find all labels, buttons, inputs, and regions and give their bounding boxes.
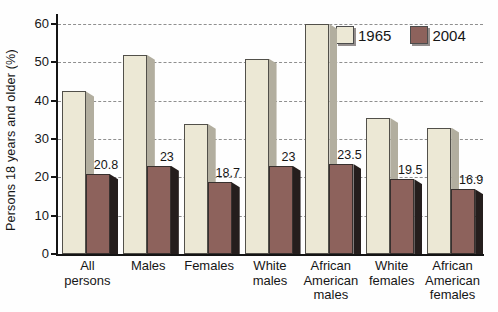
smoking-prevalence-bar-chart: Persons 18 years and older (%) 010203040… xyxy=(0,0,498,312)
x-category-label-african-american-females: AfricanAmericanfemales xyxy=(414,259,491,303)
bar-1965-african-american-males xyxy=(305,24,329,254)
value-label-white-males: 23 xyxy=(282,150,296,164)
bar-1965-white-males xyxy=(245,59,269,255)
bar-2004-all-persons xyxy=(86,174,110,254)
bar-side-2004-all-persons xyxy=(110,174,118,254)
y-tick-label-20: 20 xyxy=(20,169,49,185)
value-label-african-american-males: 23.5 xyxy=(337,148,361,162)
bar-side-2004-african-american-females xyxy=(475,189,483,254)
value-label-african-american-females: 16.9 xyxy=(459,173,483,187)
value-label-white-females: 19.5 xyxy=(398,163,422,177)
x-category-label-line: females xyxy=(414,288,491,303)
y-tick-label-30: 30 xyxy=(20,131,49,147)
bar-2004-white-females xyxy=(390,179,414,254)
bar-2004-african-american-males xyxy=(329,164,353,254)
y-tick-label-60: 60 xyxy=(20,16,49,32)
legend-swatch-1965 xyxy=(336,26,354,44)
legend-swatch-2004 xyxy=(410,26,428,44)
y-axis-line xyxy=(56,14,58,256)
bar-1965-females xyxy=(184,124,208,254)
legend-item-1965: 1965 xyxy=(336,26,391,44)
y-tick-label-0: 0 xyxy=(20,246,49,262)
x-category-label-line: American xyxy=(414,274,491,289)
bar-side-2004-females xyxy=(232,182,240,254)
x-axis-line xyxy=(56,254,484,256)
bar-2004-white-males xyxy=(269,166,293,254)
y-tick-label-50: 50 xyxy=(20,54,49,70)
bar-1965-white-females xyxy=(366,118,390,254)
bar-2004-males xyxy=(147,166,171,254)
legend: 19652004 xyxy=(336,26,466,44)
gridline-60 xyxy=(58,24,483,25)
value-label-females: 18.7 xyxy=(216,166,240,180)
value-label-all-persons: 20.8 xyxy=(94,158,118,172)
x-category-label-line: males xyxy=(292,288,369,303)
bar-side-2004-white-females xyxy=(414,179,422,254)
plot-area: 010203040506020.8Allpersons23Males18.7Fe… xyxy=(0,0,498,312)
bar-1965-all-persons xyxy=(62,91,86,254)
bar-2004-african-american-females xyxy=(451,189,475,254)
legend-label-1965: 1965 xyxy=(358,27,391,44)
y-tick-label-10: 10 xyxy=(20,208,49,224)
legend-item-2004: 2004 xyxy=(410,26,465,44)
bar-2004-females xyxy=(208,182,232,254)
bar-1965-african-american-females xyxy=(427,128,451,255)
bar-side-2004-males xyxy=(171,166,179,254)
legend-label-2004: 2004 xyxy=(432,27,465,44)
bar-side-2004-white-males xyxy=(293,166,301,254)
bar-1965-males xyxy=(123,55,147,254)
bar-side-2004-african-american-males xyxy=(353,164,361,254)
x-category-label-line: African xyxy=(414,259,491,274)
x-category-label-line: persons xyxy=(49,274,126,289)
value-label-males: 23 xyxy=(160,150,174,164)
y-tick-label-40: 40 xyxy=(20,93,49,109)
